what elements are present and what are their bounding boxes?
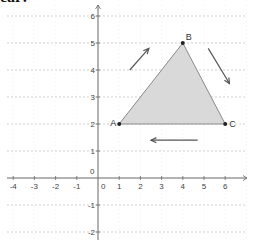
- y-tick-label: 4: [91, 66, 96, 75]
- x-tick-label: 4: [181, 182, 186, 191]
- y-tick-label: 5: [91, 39, 96, 48]
- x-tick-label: -2: [52, 182, 60, 191]
- point-a: [117, 122, 121, 126]
- y-tick-label: 6: [91, 12, 96, 21]
- origin-label: 0: [90, 167, 95, 176]
- x-tick-label: 2: [138, 182, 143, 191]
- y-tick-label: 3: [91, 93, 96, 102]
- coordinate-plane: -4-3-2-100123456-2-1123456 ABC: [0, 0, 253, 244]
- y-tick-label: -2: [88, 228, 96, 237]
- arrow-shaft: [130, 48, 149, 70]
- x-tick-label: 1: [117, 182, 122, 191]
- x-tick-label: -1: [73, 182, 81, 191]
- triangle-polygon: [119, 43, 225, 124]
- y-tick-label: 2: [91, 120, 96, 129]
- y-tick-label: -1: [88, 201, 96, 210]
- x-tick-label: 3: [159, 182, 164, 191]
- point-c: [223, 122, 227, 126]
- point-label-a: A: [110, 118, 116, 128]
- x-tick-label: -4: [10, 182, 18, 191]
- x-tick-label: 6: [223, 182, 228, 191]
- point-b: [181, 41, 185, 45]
- x-tick-label: -3: [31, 182, 39, 191]
- x-tick-label: 5: [202, 182, 207, 191]
- triangle-abc: [119, 43, 225, 124]
- point-label-c: C: [229, 119, 236, 129]
- arrow-shaft: [208, 48, 229, 83]
- point-label-b: B: [186, 32, 192, 42]
- x-tick-label: 0: [101, 182, 106, 191]
- y-tick-label: 1: [91, 147, 96, 156]
